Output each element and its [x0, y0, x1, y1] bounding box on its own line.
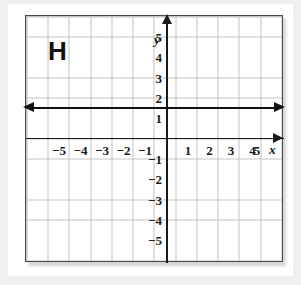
x-tick--5: −5: [52, 144, 66, 157]
y-tick--2: −2: [144, 173, 162, 186]
figure-page: H y x −5 −4 −3 −2 −1 1 2 3 4 5 5 4 3 2 1…: [0, 0, 301, 285]
y-tick-3: 3: [152, 71, 162, 84]
x-tick--3: −3: [95, 144, 109, 157]
y-tick-2: 2: [152, 91, 162, 104]
x-tick-2: 2: [206, 144, 213, 157]
y-axis: [166, 16, 168, 263]
figure-label: H: [48, 38, 66, 64]
y-axis-arrow-icon: [162, 14, 172, 24]
x-tick-3: 3: [228, 144, 235, 157]
x-tick--4: −4: [74, 144, 88, 157]
x-axis-label: x: [269, 143, 276, 157]
x-tick-1: 1: [185, 144, 192, 157]
coordinate-plane: H y x −5 −4 −3 −2 −1 1 2 3 4 5 5 4 3 2 1…: [25, 15, 283, 262]
y-tick--3: −3: [144, 193, 162, 206]
y-tick--1: −1: [144, 152, 162, 165]
y-tick--4: −4: [144, 213, 162, 226]
plotted-line: [33, 107, 277, 110]
y-tick-5: 5: [152, 30, 162, 43]
x-tick--2: −2: [117, 144, 131, 157]
y-tick-4: 4: [152, 51, 162, 64]
x-tick-5: 5: [254, 144, 261, 157]
plotted-line-right-arrow-icon: [274, 102, 285, 112]
plotted-line-left-arrow-icon: [23, 102, 34, 112]
y-tick-1: 1: [152, 112, 162, 125]
y-tick--5: −5: [144, 234, 162, 247]
x-axis-arrow-icon: [273, 133, 283, 143]
x-axis: [26, 138, 284, 140]
